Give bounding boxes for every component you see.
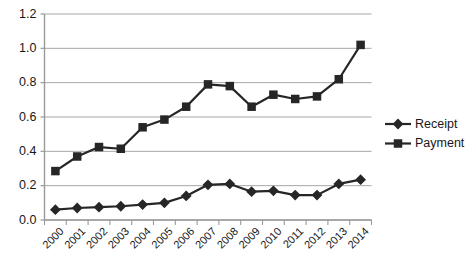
legend: ReceiptPayment <box>385 117 465 151</box>
legend-marker <box>394 139 403 148</box>
data-point <box>182 102 191 111</box>
data-point <box>117 145 126 154</box>
x-tick-label: 2010 <box>258 225 284 251</box>
data-point <box>247 102 256 111</box>
x-axis-ticks: 2000200120022003200420052006200720082009… <box>40 220 371 251</box>
x-tick-label: 2001 <box>62 225 88 251</box>
x-tick-label: 2006 <box>171 225 197 251</box>
x-tick-label: 2013 <box>323 225 349 251</box>
x-tick-label: 2000 <box>40 225 66 251</box>
data-point <box>73 152 82 161</box>
x-tick-label: 2014 <box>345 225 371 251</box>
line-chart: 0.00.20.40.60.81.01.22000200120022003200… <box>0 0 466 269</box>
data-point <box>356 41 365 50</box>
y-tick-label: 0.8 <box>19 75 36 89</box>
y-tick-label: 0.2 <box>19 178 36 192</box>
data-point <box>95 143 104 152</box>
x-tick-label: 2002 <box>84 225 110 251</box>
data-point <box>291 95 300 104</box>
x-tick-label: 2005 <box>149 225 175 251</box>
data-point <box>313 92 322 101</box>
y-tick-label: 0.0 <box>19 213 36 227</box>
y-axis-ticks: 0.00.20.40.60.81.01.2 <box>19 7 44 227</box>
x-tick-label: 2004 <box>127 225 153 251</box>
y-tick-label: 0.4 <box>19 144 36 158</box>
y-tick-label: 1.0 <box>19 41 36 55</box>
x-tick-label: 2008 <box>214 225 240 251</box>
data-point <box>335 75 344 84</box>
data-point <box>269 90 278 99</box>
x-tick-label: 2007 <box>193 225 219 251</box>
data-point <box>160 115 169 124</box>
chart-canvas: 0.00.20.40.60.81.01.22000200120022003200… <box>0 0 466 269</box>
y-tick-label: 1.2 <box>19 7 36 21</box>
data-point <box>204 80 213 89</box>
data-point <box>138 123 147 132</box>
x-tick-label: 2009 <box>236 225 262 251</box>
legend-marker <box>393 119 404 130</box>
x-tick-label: 2003 <box>105 225 131 251</box>
legend-label: Payment <box>415 136 465 150</box>
legend-item-receipt[interactable]: Receipt <box>385 117 458 131</box>
data-point <box>51 167 60 176</box>
x-tick-label: 2011 <box>280 225 305 250</box>
legend-label: Receipt <box>415 117 458 131</box>
x-tick-label: 2012 <box>302 225 328 251</box>
legend-item-payment[interactable]: Payment <box>385 136 465 150</box>
y-tick-label: 0.6 <box>19 110 36 124</box>
data-point <box>226 82 235 91</box>
